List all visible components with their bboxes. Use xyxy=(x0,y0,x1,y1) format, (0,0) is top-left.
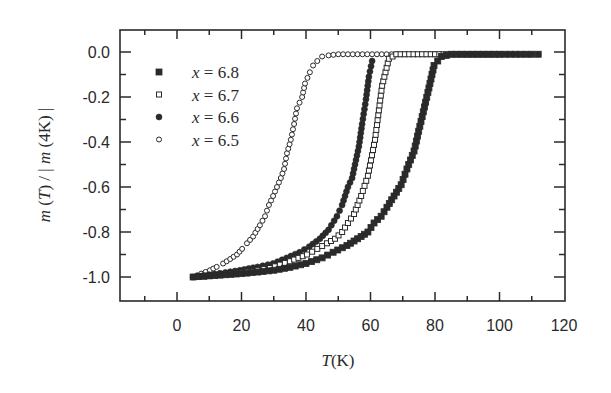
open-circle-marker xyxy=(240,246,245,251)
open-square-marker xyxy=(377,103,382,108)
open-square-marker xyxy=(366,168,371,173)
legend-item: x = 6.7 xyxy=(157,86,240,105)
open-square-marker xyxy=(364,178,369,183)
filled-square-marker xyxy=(529,51,535,57)
y-tick-label: -0.6 xyxy=(82,179,110,196)
open-square-marker xyxy=(310,249,315,254)
open-circle-marker xyxy=(374,52,379,57)
open-circle-marker xyxy=(292,122,297,127)
open-circle-marker xyxy=(288,137,293,142)
open-square-marker xyxy=(320,244,325,249)
filled-circle-marker xyxy=(367,69,373,75)
y-tick-label: 0.0 xyxy=(88,44,110,61)
open-circle-marker xyxy=(311,63,316,68)
filled-square-marker xyxy=(156,69,162,75)
filled-circle-marker xyxy=(337,208,343,214)
open-circle-marker xyxy=(303,81,308,86)
data-series xyxy=(190,51,541,280)
x-tick-label: 20 xyxy=(233,317,251,334)
open-square-marker xyxy=(378,98,383,103)
filled-circle-marker xyxy=(366,74,372,80)
legend-label: x = 6.6 xyxy=(191,108,239,127)
plot-frame xyxy=(120,30,565,301)
filled-circle-marker xyxy=(368,63,374,69)
open-square-marker xyxy=(375,118,380,123)
open-circle-marker xyxy=(341,52,346,57)
open-square-marker xyxy=(373,132,378,137)
open-circle-marker xyxy=(297,100,302,105)
open-circle-marker xyxy=(331,52,336,57)
filled-circle-marker xyxy=(156,114,162,120)
x-tick-label: 80 xyxy=(426,317,444,334)
open-circle-marker xyxy=(289,132,294,137)
open-square-marker xyxy=(367,163,372,168)
open-circle-marker xyxy=(283,161,288,166)
open-square-marker xyxy=(376,108,381,113)
open-circle-marker xyxy=(282,167,287,172)
open-circle-marker xyxy=(264,208,269,213)
filled-circle-marker xyxy=(369,58,375,64)
open-square-marker xyxy=(370,148,375,153)
open-circle-marker xyxy=(307,70,312,75)
open-circle-marker xyxy=(294,106,299,111)
legend-item: x = 6.8 xyxy=(156,63,239,82)
open-square-marker xyxy=(379,88,384,93)
y-axis-label: m (T) / | m (4K) | xyxy=(35,108,54,223)
x-tick-label: 100 xyxy=(486,317,513,334)
open-square-marker xyxy=(373,137,378,142)
y-tick-label: -0.8 xyxy=(82,224,110,241)
x-tick-label: 120 xyxy=(551,317,578,334)
legend-item: x = 6.6 xyxy=(156,108,239,127)
open-circle-marker xyxy=(326,53,331,58)
legend-item: x = 6.5 xyxy=(157,131,239,150)
x-tick-label: 0 xyxy=(173,317,182,334)
filled-square-marker xyxy=(535,51,541,57)
open-square-marker xyxy=(368,158,373,163)
open-circle-marker xyxy=(290,127,295,132)
open-square-marker xyxy=(372,142,377,147)
open-circle-marker xyxy=(214,264,219,269)
open-square-marker xyxy=(369,153,374,158)
open-square-marker xyxy=(374,123,379,128)
open-circle-marker xyxy=(379,52,384,57)
x-axis-label: T(K) xyxy=(321,351,354,370)
open-circle-marker xyxy=(294,111,299,116)
open-square-marker xyxy=(365,173,370,178)
filled-circle-marker xyxy=(334,213,340,219)
legend-label: x = 6.7 xyxy=(191,86,239,105)
open-circle-marker xyxy=(293,116,298,121)
open-circle-marker xyxy=(350,52,355,57)
axis-ticks xyxy=(120,30,565,301)
x-tick-label: 40 xyxy=(297,317,315,334)
open-circle-marker xyxy=(370,52,375,57)
open-square-marker xyxy=(157,92,162,97)
open-square-marker xyxy=(360,188,365,193)
plot-area-border xyxy=(120,30,565,301)
open-circle-marker xyxy=(355,52,360,57)
x-tick-label: 60 xyxy=(362,317,380,334)
open-circle-marker xyxy=(315,59,320,64)
open-circle-marker xyxy=(284,156,289,161)
open-square-marker xyxy=(376,113,381,118)
open-circle-marker xyxy=(365,52,370,57)
legend-label: x = 6.8 xyxy=(191,63,239,82)
open-circle-marker xyxy=(360,52,365,57)
open-circle-marker xyxy=(320,54,325,59)
open-circle-marker xyxy=(305,75,310,80)
y-tick-label: -0.4 xyxy=(82,134,110,151)
open-square-marker xyxy=(378,93,383,98)
open-circle-marker xyxy=(345,52,350,57)
open-circle-marker xyxy=(157,137,162,142)
tick-labels: 0204060801001200.0-0.2-0.4-0.6-0.8-1.0 xyxy=(82,44,577,334)
open-circle-marker xyxy=(336,52,341,57)
legend-label: x = 6.5 xyxy=(191,131,239,150)
open-circle-marker xyxy=(263,214,268,219)
open-square-marker xyxy=(359,194,364,199)
open-square-marker xyxy=(304,252,309,257)
open-square-marker xyxy=(374,127,379,132)
x-axis-label-unit: (K) xyxy=(331,351,355,370)
open-square-marker xyxy=(315,246,320,251)
chart: 0204060801001200.0-0.2-0.4-0.6-0.8-1.0 x… xyxy=(0,0,611,393)
y-tick-label: -0.2 xyxy=(82,89,110,106)
legend: x = 6.8x = 6.7x = 6.6x = 6.5 xyxy=(156,63,239,150)
